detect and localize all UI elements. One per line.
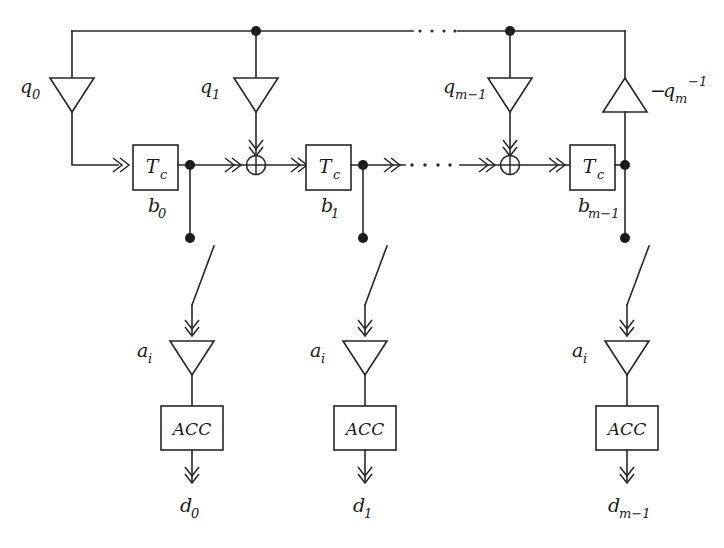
branch1-switch-blade (365, 246, 387, 305)
tap-gain-qm1: q m−1 (443, 31, 532, 156)
qm-triangle-icon (603, 78, 647, 112)
tcm1-label-sub: c (597, 167, 605, 182)
tc1-label-sub: c (333, 167, 341, 182)
delay-stage-0: T c b 0 (133, 145, 245, 221)
top-feedback-bus (72, 26, 625, 78)
branchm1-gain-label-sub: i (583, 351, 587, 366)
adder-xor-1 (247, 156, 312, 175)
branchm1-output-label-sub: m−1 (619, 506, 651, 521)
b1-label-sub: 1 (331, 206, 339, 221)
q1-triangle-icon (234, 78, 278, 112)
branch0-gain-label-sub: i (148, 351, 152, 366)
branchm1-gain-label: a (572, 339, 583, 361)
branch0-output-label-sub: 0 (191, 506, 199, 521)
qm1-triangle-icon (488, 78, 532, 112)
q0-label-sub: 0 (32, 87, 40, 102)
qm-label: q (663, 79, 675, 101)
b0-label-sub: 0 (158, 206, 166, 221)
tc0-label: T (146, 155, 160, 177)
q1-label-sub: 1 (212, 87, 220, 102)
branch0-accumulator-label: ACC (171, 419, 211, 439)
tap-gain-q0: q 0 (20, 75, 129, 172)
tcm1-label: T (583, 155, 597, 177)
branch0-switch-blade (192, 246, 214, 305)
block-diagram-figure: q 0 q 1 q m−1 (0, 0, 724, 548)
branchm1-switch-contact-dot (620, 233, 630, 243)
output-branch-0: a i ACC d 0 (137, 165, 223, 521)
bm1-label-sub: m−1 (588, 206, 620, 221)
signal-chain-ellipsis (410, 163, 451, 166)
tc1-label: T (319, 155, 333, 177)
q0-output-wire (72, 112, 118, 165)
delay-stage-m1: T c b m−1 (570, 145, 630, 221)
q0-label: q (20, 75, 32, 97)
qm1-label: q (443, 75, 455, 97)
tap-gain-qm-inverse: − q m −1 (603, 74, 707, 165)
circuit-svg: q 0 q 1 q m−1 (0, 0, 724, 548)
branch1-gain-triangle-icon (343, 341, 387, 375)
tap-gain-q1: q 1 (200, 31, 278, 156)
branch1-gain-label: a (310, 339, 321, 361)
branch1-accumulator-label: ACC (344, 419, 384, 439)
branch0-switch-contact-dot (185, 233, 195, 243)
branchm1-accumulator-label: ACC (606, 419, 646, 439)
q1-label: q (200, 75, 212, 97)
branchm1-switch-blade (627, 246, 649, 305)
branch1-switch-contact-dot (358, 233, 368, 243)
branch1-output-label-sub: 1 (364, 506, 372, 521)
branch1-gain-label-sub: i (321, 351, 325, 366)
qm-label-sup: −1 (688, 74, 707, 89)
q0-triangle-icon (50, 78, 94, 112)
branchm1-gain-triangle-icon (605, 341, 649, 375)
adder-xor-2 (501, 156, 571, 175)
qm1-label-sub: m−1 (455, 87, 487, 102)
tc0-label-sub: c (160, 167, 168, 182)
delay-stage-1: T c b 1 (306, 145, 405, 221)
bus-ellipsis (418, 29, 456, 32)
chain-segment-to-xor2 (460, 158, 500, 172)
qm-label-sub: m (675, 91, 687, 106)
branch0-gain-label: a (137, 339, 148, 361)
output-branch-1: a i ACC d 1 (310, 165, 396, 521)
branch0-gain-triangle-icon (170, 341, 214, 375)
